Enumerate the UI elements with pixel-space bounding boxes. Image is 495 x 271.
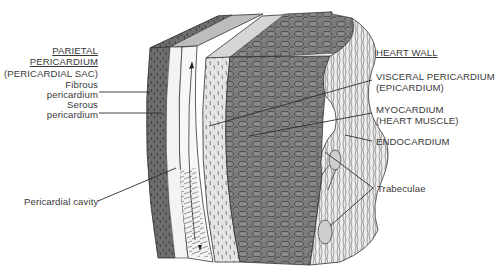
serous-label-line2: pericardium xyxy=(28,109,98,120)
parietal-heading-line1: PARIETAL xyxy=(34,45,98,56)
myocardium-line2: (HEART MUSCLE) xyxy=(376,115,459,126)
visceral-pericardium-line2: (EPICARDIUM) xyxy=(376,82,444,93)
pericardial-sac-label: (PERICARDIAL SAC) xyxy=(2,68,98,79)
heart-wall-heading: HEART WALL xyxy=(376,47,438,58)
pericardial-cavity-label: Pericardial cavity xyxy=(24,196,98,207)
visceral-pericardium-line1: VISCERAL PERICARDIUM xyxy=(376,71,495,82)
parietal-heading-line2: PERICARDIUM xyxy=(14,56,98,67)
trabeculae-label: Trabeculae xyxy=(377,183,426,194)
endocardium-label: ENDOCARDIUM xyxy=(376,136,450,147)
myocardium-line1: MYOCARDIUM xyxy=(376,104,444,115)
